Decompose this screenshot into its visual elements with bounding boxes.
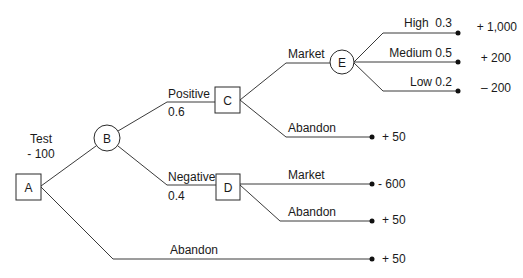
node-e: E <box>330 50 354 74</box>
label-a-abandon: Abandon <box>170 243 218 257</box>
node-d-label: D <box>224 181 233 195</box>
payoff-d-market: - 600 <box>378 177 406 191</box>
label-negative-prob: 0.4 <box>168 189 185 203</box>
terminal-dot-a-abandon <box>370 257 375 262</box>
payoff-d-abandon: + 50 <box>382 213 406 227</box>
terminal-dot-e-high <box>456 31 461 36</box>
payoff-a-abandon: + 50 <box>382 252 406 266</box>
terminal-dot-e-low <box>456 89 461 94</box>
label-e-medium: Medium 0.5 <box>389 46 452 60</box>
label-negative: Negative <box>168 170 216 184</box>
label-d-abandon: Abandon <box>288 205 336 219</box>
node-a-label: A <box>24 181 32 195</box>
terminal-dot-d-market <box>370 182 375 187</box>
label-test: Test <box>30 132 53 146</box>
edge-c-market <box>240 63 330 100</box>
node-d: D <box>216 174 240 200</box>
label-d-market: Market <box>288 168 325 182</box>
node-b-label: B <box>103 132 111 146</box>
edge-b-positive <box>118 102 215 131</box>
label-e-high: High 0.3 <box>404 16 452 30</box>
terminal-dot-e-medium <box>456 60 461 65</box>
payoff-c-abandon: + 50 <box>382 130 406 144</box>
node-c: C <box>215 87 240 113</box>
payoff-e-low: – 200 <box>481 81 511 95</box>
node-b: B <box>94 125 120 151</box>
label-e-low: Low 0.2 <box>410 75 452 89</box>
payoff-e-medium: + 200 <box>481 51 512 65</box>
label-c-market: Market <box>288 47 325 61</box>
node-c-label: C <box>223 94 232 108</box>
label-c-abandon: Abandon <box>288 121 336 135</box>
terminal-dot-d-abandon <box>370 219 375 224</box>
label-positive-prob: 0.6 <box>168 105 185 119</box>
label-test-cost: - 100 <box>27 147 55 161</box>
payoff-e-high: + 1,000 <box>477 20 518 34</box>
label-positive: Positive <box>168 87 210 101</box>
decision-tree-diagram: A B C D E Test - 100 Positive 0.6 Negati… <box>0 0 523 278</box>
node-a: A <box>16 174 41 200</box>
node-e-label: E <box>338 56 346 70</box>
terminal-dot-c-abandon <box>370 135 375 140</box>
